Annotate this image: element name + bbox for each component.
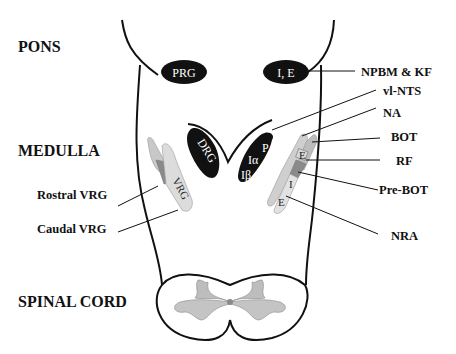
label-caudal-vrg: Caudal VRG	[37, 222, 107, 236]
ie-label: I, E	[277, 66, 294, 80]
i-mid-label: I	[289, 178, 293, 190]
left-vrg-column: VRG	[148, 138, 193, 212]
e-upper-label: E	[299, 149, 306, 161]
label-na: NA	[383, 106, 401, 120]
region-spinal-cord: SPINAL CORD	[18, 293, 127, 310]
label-nra: NRA	[391, 229, 418, 243]
label-bot: BOT	[391, 130, 418, 144]
label-pre-bot: Pre-BOT	[379, 183, 429, 197]
e-lower-label: E	[278, 196, 285, 208]
label-rostral-vrg: Rostral VRG	[37, 188, 108, 202]
prg-nucleus: PRG	[161, 60, 207, 84]
prg-label: PRG	[172, 66, 196, 80]
region-medulla: MEDULLA	[18, 142, 100, 159]
label-vl-nts: vl-NTS	[383, 84, 421, 98]
right-vrg-column: E I E	[267, 134, 316, 213]
i-beta-label: Iβ	[241, 168, 251, 182]
i-alpha-label: Iα	[248, 153, 259, 167]
label-rf: RF	[396, 154, 413, 168]
region-pons: PONS	[18, 38, 61, 55]
label-npbm-kf: NPBM & KF	[361, 65, 432, 79]
ie-nucleus: I, E	[263, 60, 309, 84]
respiratory-centers-diagram: PRG I, E DRG P Iα Iβ VRG E I E	[0, 0, 456, 354]
drg-nucleus: DRG	[187, 128, 220, 178]
p-label: P	[262, 141, 269, 155]
